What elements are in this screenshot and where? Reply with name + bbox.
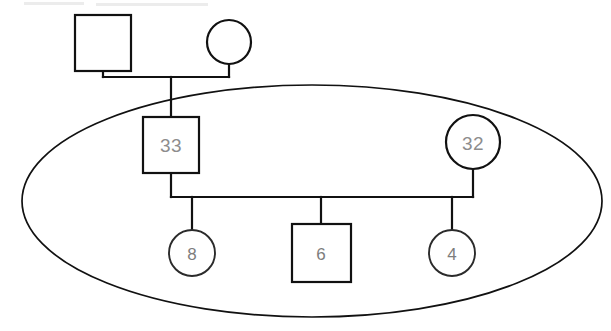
child-1-age-label: 8: [187, 245, 196, 264]
grandfather-square[interactable]: [75, 15, 131, 71]
child-3-age-label: 4: [447, 245, 456, 264]
child-2-age-label: 6: [316, 245, 325, 264]
genogram-drawing: 33 32 8 6 4: [0, 0, 611, 331]
grandmother-circle[interactable]: [207, 20, 251, 64]
father-age-label: 33: [160, 135, 182, 156]
genogram-canvas: 33 32 8 6 4: [0, 0, 611, 331]
mother-age-label: 32: [462, 133, 484, 154]
